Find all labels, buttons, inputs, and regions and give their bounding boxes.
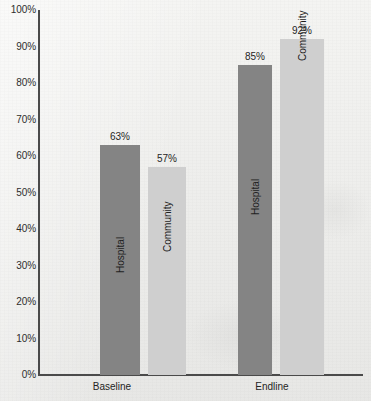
bar-series-label: Hospital [250,179,261,215]
y-axis-tick: 60% [2,151,36,161]
bar-series-label: Community [162,201,173,252]
bar-rect: Community [280,39,324,375]
y-axis-tick: 70% [2,115,36,125]
bar-endline-hospital[interactable]: 85% Hospital [238,65,272,375]
bar-endline-community[interactable]: 92% Community [280,39,324,375]
bar-chart: 100% 90% 80% 70% 60% 50% 40% 30% 20% 10%… [0,0,371,401]
bar-rect: Hospital [238,65,272,375]
y-axis-tick: 10% [2,334,36,344]
y-axis-tick: 0% [2,370,36,380]
bar-group-endline: 85% Hospital 92% Community [226,10,354,375]
plot-area: 63% Hospital 57% Community 85% Hospital [40,10,363,375]
x-axis-category-endline: Endline [222,381,322,393]
y-axis-tick: 80% [2,78,36,88]
bar-baseline-hospital[interactable]: 63% Hospital [100,145,140,375]
bar-rect: Hospital [100,145,140,375]
bar-rect: Community [148,167,186,375]
y-axis-tick: 100% [2,5,36,15]
x-axis-category-baseline: Baseline [62,381,162,393]
bar-series-label: Community [297,11,308,62]
bar-value-label: 63% [110,131,130,142]
y-axis-tick: 20% [2,297,36,307]
y-axis-tick: 30% [2,261,36,271]
bar-value-label: 85% [245,51,265,62]
y-axis-tick: 90% [2,42,36,52]
y-axis-tick: 40% [2,224,36,234]
y-axis-tick-labels: 100% 90% 80% 70% 60% 50% 40% 30% 20% 10%… [0,0,36,401]
bar-series-label: Hospital [115,237,126,273]
y-axis-tick: 50% [2,188,36,198]
bar-value-label: 57% [157,153,177,164]
bar-baseline-community[interactable]: 57% Community [148,167,186,375]
bar-group-baseline: 63% Hospital 57% Community [64,10,192,375]
